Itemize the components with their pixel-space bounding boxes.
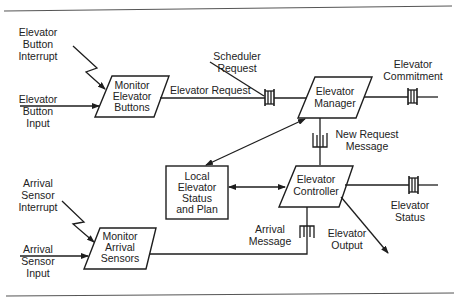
svg-text:Elevator: Elevator bbox=[19, 93, 58, 105]
elevator-manager-label: Elevator Manager bbox=[314, 85, 356, 109]
svg-text:Arrival: Arrival bbox=[255, 223, 285, 235]
svg-text:Buttons: Buttons bbox=[114, 101, 150, 113]
sensor-interrupt-arrow bbox=[62, 201, 94, 242]
svg-text:Status: Status bbox=[395, 211, 425, 223]
svg-text:Input: Input bbox=[26, 117, 49, 129]
elevator-controller-label: Elevator Controller bbox=[293, 173, 339, 197]
monitor-elevator-buttons-label: Monitor Elevator Buttons bbox=[113, 79, 152, 113]
arrival-message-label: Arrival Message bbox=[249, 223, 292, 247]
svg-text:Controller: Controller bbox=[293, 185, 339, 197]
svg-text:Elevator: Elevator bbox=[19, 26, 58, 38]
top-rule bbox=[4, 6, 452, 11]
svg-text:Button: Button bbox=[23, 38, 54, 50]
button-input-label: Elevator Button Input bbox=[19, 93, 58, 129]
svg-text:Input: Input bbox=[26, 267, 49, 279]
svg-text:Message: Message bbox=[346, 140, 389, 152]
bottom-rule bbox=[6, 293, 454, 296]
svg-text:Commitment: Commitment bbox=[383, 70, 443, 82]
manager-local-status-arrow bbox=[206, 119, 305, 165]
svg-text:Elevator: Elevator bbox=[394, 58, 433, 70]
svg-text:Sensor: Sensor bbox=[21, 189, 55, 201]
svg-text:Elevator: Elevator bbox=[297, 173, 336, 185]
elevator-commitment-label: Elevator Commitment bbox=[383, 58, 443, 82]
elevator-request-label: Elevator Request bbox=[170, 84, 251, 96]
svg-text:New Request: New Request bbox=[335, 128, 398, 140]
button-interrupt-label: Elevator Button Interrupt bbox=[18, 26, 57, 62]
elevator-status-queue-icon bbox=[409, 176, 418, 194]
svg-text:Elevator: Elevator bbox=[316, 85, 355, 97]
svg-text:Elevator: Elevator bbox=[391, 199, 430, 211]
sensor-interrupt-label: Arrival Sensor Interrupt bbox=[18, 177, 57, 213]
svg-text:Sensors: Sensors bbox=[101, 252, 140, 264]
scheduler-request-label: Scheduler Request bbox=[213, 50, 261, 74]
svg-text:Sensor: Sensor bbox=[21, 255, 55, 267]
sensor-input-label: Arrival Sensor Input bbox=[21, 243, 55, 279]
button-interrupt-arrow bbox=[73, 46, 105, 89]
elevator-request-queue-icon bbox=[265, 89, 274, 106]
svg-text:and Plan: and Plan bbox=[176, 203, 218, 215]
svg-text:Button: Button bbox=[23, 105, 54, 117]
svg-text:Scheduler: Scheduler bbox=[213, 50, 261, 62]
svg-text:Manager: Manager bbox=[314, 97, 356, 109]
svg-text:Message: Message bbox=[249, 235, 292, 247]
svg-text:Output: Output bbox=[331, 239, 363, 251]
elevator-task-diagram: Elevator Button Interrupt Elevator Butto… bbox=[0, 0, 460, 300]
monitor-arrival-sensors-label: Monitor Arrival Sensors bbox=[101, 230, 140, 264]
elevator-status-label: Elevator Status bbox=[391, 199, 430, 223]
svg-text:Arrival: Arrival bbox=[23, 177, 53, 189]
svg-text:Interrupt: Interrupt bbox=[18, 50, 57, 62]
elevator-commitment-queue-icon bbox=[408, 88, 417, 105]
svg-text:Request: Request bbox=[217, 62, 256, 74]
svg-text:Elevator: Elevator bbox=[328, 227, 367, 239]
svg-text:Interrupt: Interrupt bbox=[18, 201, 57, 213]
elevator-output-label: Elevator Output bbox=[328, 227, 367, 251]
svg-text:Arrival: Arrival bbox=[23, 243, 53, 255]
new-request-message-label: New Request Message bbox=[335, 128, 398, 152]
